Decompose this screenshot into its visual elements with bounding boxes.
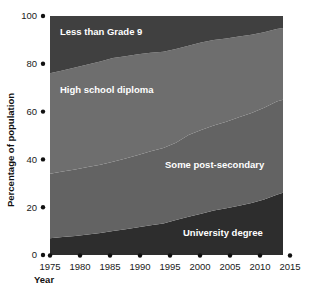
- y-tick-dot: [41, 205, 45, 209]
- y-tick-dot: [41, 253, 45, 257]
- x-tick-dot: [228, 253, 232, 257]
- x-tick-dot: [288, 253, 292, 257]
- y-tick-label: 40: [26, 154, 37, 165]
- y-tick-dot: [41, 157, 45, 161]
- x-axis-title: Year: [34, 274, 54, 285]
- y-axis-title: Percentage of population: [5, 93, 16, 207]
- x-axis-ticks-group: 197519801985199019952000200520102015: [39, 253, 300, 272]
- series-label: High school diploma: [60, 84, 154, 95]
- y-tick-label: 100: [21, 10, 37, 21]
- x-tick-dot: [78, 253, 82, 257]
- y-tick-label: 60: [26, 106, 37, 117]
- x-tick-dot: [168, 253, 172, 257]
- x-tick-label: 1985: [99, 261, 120, 272]
- x-tick-label: 2005: [219, 261, 240, 272]
- x-tick-dot: [138, 253, 142, 257]
- area-bands-group: [50, 16, 283, 255]
- stacked-area-chart: 020406080100 197519801985199019952000200…: [0, 0, 312, 293]
- y-tick-dot: [41, 62, 45, 66]
- x-tick-label: 1990: [129, 261, 150, 272]
- x-tick-dot: [258, 253, 262, 257]
- x-tick-label: 2000: [189, 261, 210, 272]
- x-tick-dot: [198, 253, 202, 257]
- x-tick-dot: [108, 253, 112, 257]
- x-tick-label: 1995: [159, 261, 180, 272]
- x-tick-label: 1980: [69, 261, 90, 272]
- x-tick-label: 1975: [39, 261, 60, 272]
- chart-container: 020406080100 197519801985199019952000200…: [0, 0, 312, 293]
- series-label: University degree: [183, 227, 263, 238]
- y-tick-label: 0: [32, 249, 37, 260]
- x-tick-dot: [48, 253, 52, 257]
- y-tick-label: 80: [26, 58, 37, 69]
- y-tick-dot: [41, 14, 45, 18]
- series-label: Some post-secondary: [165, 159, 265, 170]
- y-tick-label: 20: [26, 202, 37, 213]
- y-tick-dot: [41, 109, 45, 113]
- x-tick-label: 2015: [279, 261, 300, 272]
- series-label: Less than Grade 9: [60, 26, 142, 37]
- x-tick-label: 2010: [249, 261, 270, 272]
